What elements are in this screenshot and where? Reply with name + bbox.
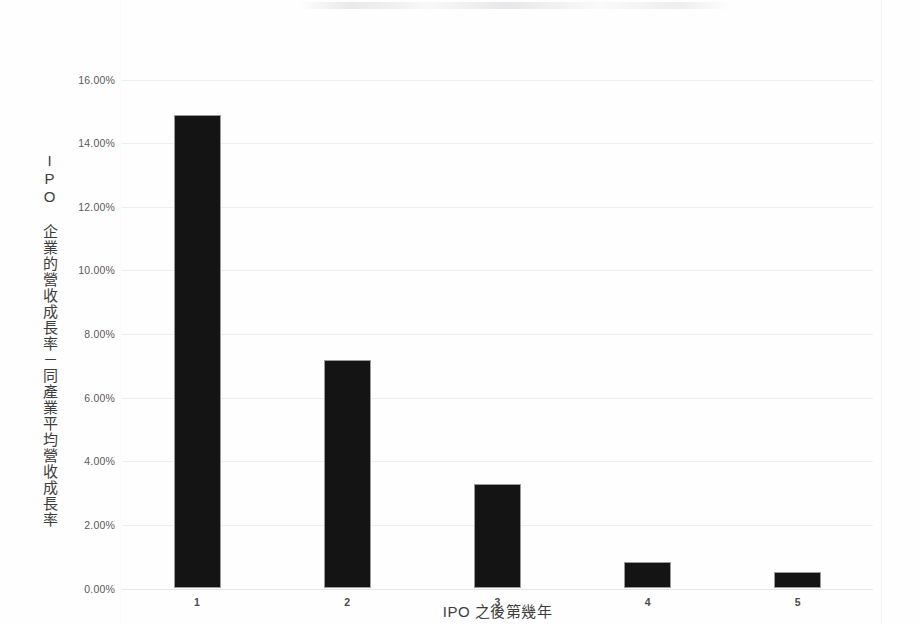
bar[interactable] (624, 562, 671, 588)
y-axis-tick-label: 16.00% (78, 74, 115, 86)
y-axis-tick-label: 10.00% (78, 264, 115, 276)
bar[interactable] (474, 484, 521, 588)
y-axis-tick-label: 0.00% (84, 583, 115, 595)
gridline (122, 398, 873, 399)
x-axis-tick-label: 5 (795, 596, 801, 608)
y-axis-tick-label: 6.00% (84, 392, 115, 404)
y-axis-tick-label: 2.00% (84, 519, 115, 531)
x-axis-tick-label: 4 (645, 596, 651, 608)
bar-chart: IPO 企業的營收成長率－同產業平均營收成長率 16.00%14.00%12.0… (0, 0, 920, 624)
y-axis-tick-label: 14.00% (78, 137, 115, 149)
y-axis-tick-label: 4.00% (84, 455, 115, 467)
x-axis-tick-label: 1 (194, 596, 200, 608)
gridline (122, 334, 873, 335)
plot-area (122, 80, 873, 589)
x-axis-tick-label: 2 (344, 596, 350, 608)
gridline (122, 207, 873, 208)
gridline (122, 143, 873, 144)
gridline (122, 270, 873, 271)
gridline (122, 589, 873, 590)
gridline (122, 80, 873, 81)
bar[interactable] (324, 360, 371, 588)
y-axis-tick-label: 12.00% (78, 201, 115, 213)
y-axis-tick-label: 8.00% (84, 328, 115, 340)
bar[interactable] (174, 115, 221, 588)
y-axis-tick-labels: 16.00%14.00%12.00%10.00%8.00%6.00%4.00%2… (55, 80, 115, 589)
bar[interactable] (774, 572, 821, 588)
scanned-page: IPO 企業的營收成長率－同產業平均營收成長率 16.00%14.00%12.0… (0, 0, 920, 624)
y-axis-title: IPO 企業的營收成長率－同產業平均營收成長率 (31, 152, 57, 528)
x-axis-tick-label: 3 (494, 596, 500, 608)
gridline (122, 461, 873, 462)
